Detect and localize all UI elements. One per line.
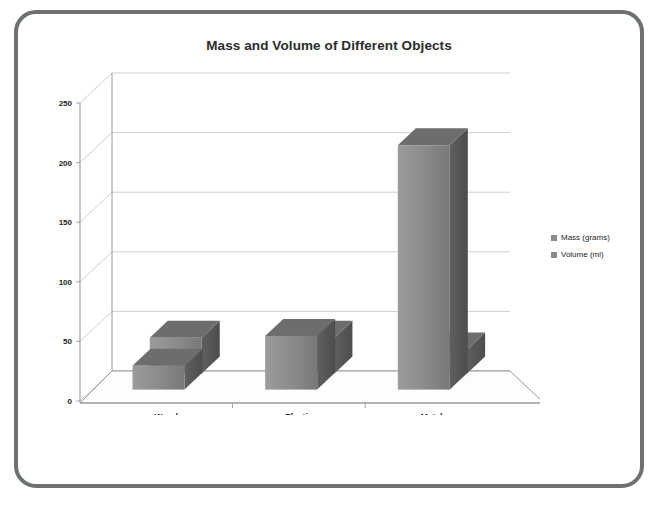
svg-text:50: 50 bbox=[63, 337, 72, 346]
legend-swatch-volume bbox=[551, 252, 557, 258]
bar-metal-mass[interactable] bbox=[398, 128, 468, 389]
plot-area: 050100150200250WoodPlasticMetal bbox=[40, 55, 540, 415]
x-tick-wood: Wood bbox=[154, 412, 177, 415]
svg-text:150: 150 bbox=[59, 218, 73, 227]
legend-label-volume: Volume (ml) bbox=[561, 249, 604, 260]
svg-text:0: 0 bbox=[68, 397, 73, 406]
x-tick-plastic: Plastic bbox=[285, 412, 313, 415]
chart-canvas: 050100150200250WoodPlasticMetal bbox=[40, 55, 540, 415]
svg-text:100: 100 bbox=[59, 278, 73, 287]
legend-item-mass[interactable]: Mass (grams) bbox=[551, 232, 651, 243]
screenshot-root: Mass and Volume of Different Objects 050… bbox=[0, 0, 658, 505]
legend-label-mass: Mass (grams) bbox=[561, 232, 610, 243]
legend-item-volume[interactable]: Volume (ml) bbox=[551, 249, 651, 260]
x-tick-metal: Metal bbox=[421, 412, 443, 415]
bar-plastic-mass[interactable] bbox=[265, 319, 335, 390]
svg-text:250: 250 bbox=[59, 99, 73, 108]
svg-text:200: 200 bbox=[59, 159, 73, 168]
chart-legend: Mass (grams) Volume (ml) bbox=[551, 232, 651, 266]
chart-title: Mass and Volume of Different Objects bbox=[0, 38, 658, 53]
legend-swatch-mass bbox=[551, 235, 557, 241]
